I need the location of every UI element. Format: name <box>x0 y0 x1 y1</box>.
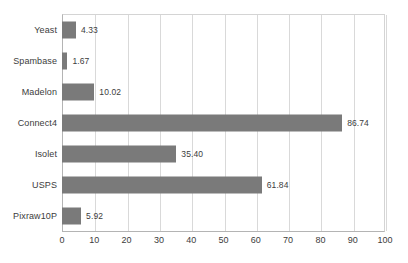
bar <box>62 83 94 100</box>
bar-value-label: 35.40 <box>181 149 203 159</box>
table-row: 10.02 <box>62 76 385 107</box>
x-axis-tick-label: 20 <box>122 235 132 245</box>
category-label-slot: Isolet <box>0 139 57 170</box>
bar-value-label: 4.33 <box>81 25 98 35</box>
bar <box>62 52 67 69</box>
x-axis-tick-label: 10 <box>89 235 99 245</box>
bar-value-label: 10.02 <box>99 87 121 97</box>
category-label: Isolet <box>35 149 57 159</box>
table-row: 86.74 <box>62 107 385 138</box>
bar <box>62 177 262 194</box>
table-row: 4.33 <box>62 14 385 45</box>
bar-value-label: 86.74 <box>347 118 369 128</box>
bar <box>62 21 76 38</box>
table-row: 1.67 <box>62 45 385 76</box>
category-label: USPS <box>32 180 57 190</box>
bar-value-label: 1.67 <box>72 56 89 66</box>
gridline <box>386 15 387 231</box>
bar <box>62 146 176 163</box>
table-row: 35.40 <box>62 139 385 170</box>
x-axis-tick-label: 70 <box>283 235 293 245</box>
x-axis-tick-label: 40 <box>186 235 196 245</box>
category-label-slot: Pixraw10P <box>0 201 57 232</box>
bar-value-label: 5.92 <box>86 211 103 221</box>
category-label: Yeast <box>34 25 57 35</box>
bars-layer: 4.331.6710.0286.7435.4061.845.92 <box>62 14 385 232</box>
x-axis-tick-label: 50 <box>218 235 228 245</box>
x-axis-tick-label: 80 <box>315 235 325 245</box>
bar <box>62 208 81 225</box>
bar-value-label: 61.84 <box>267 180 289 190</box>
x-axis-tick-labels: 0102030405060708090100 <box>62 233 385 255</box>
category-label-slot: USPS <box>0 170 57 201</box>
category-label-slot: Spambase <box>0 45 57 76</box>
x-axis-tick-label: 90 <box>348 235 358 245</box>
category-label: Spambase <box>13 56 57 66</box>
category-label-slot: Yeast <box>0 14 57 45</box>
x-axis-tick-label: 0 <box>59 235 64 245</box>
category-label: Madelon <box>22 87 57 97</box>
category-axis-labels: YeastSpambaseMadelonConnect4IsoletUSPSPi… <box>0 14 57 232</box>
x-axis-tick-label: 60 <box>251 235 261 245</box>
table-row: 5.92 <box>62 201 385 232</box>
bar-chart: YeastSpambaseMadelonConnect4IsoletUSPSPi… <box>0 0 408 263</box>
category-label-slot: Connect4 <box>0 107 57 138</box>
x-axis-tick-label: 30 <box>154 235 164 245</box>
category-label: Pixraw10P <box>13 211 57 221</box>
table-row: 61.84 <box>62 170 385 201</box>
category-label: Connect4 <box>18 118 57 128</box>
bar <box>62 114 342 131</box>
category-label-slot: Madelon <box>0 76 57 107</box>
x-axis-tick-label: 100 <box>377 235 392 245</box>
